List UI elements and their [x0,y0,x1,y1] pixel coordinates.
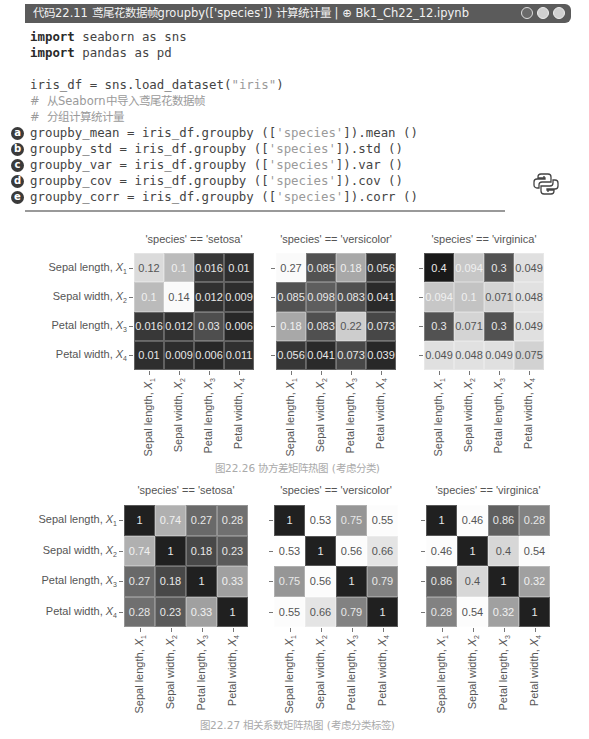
heatmap-title: 'species' == 'setosa' [126,484,246,496]
heatmap-cell: 0.049 [424,341,454,370]
heatmap-cell: 0.22 [336,312,366,341]
x-tick [473,628,474,632]
heatmap-cell: 1 [488,566,519,597]
heatmap-cell: 0.23 [217,536,248,567]
heatmap-cell: 0.01 [224,253,254,282]
heatmap-title: 'species' == 'virginica' [428,484,548,496]
y-tick [271,268,275,269]
heatmap-cell: 0.86 [426,566,457,597]
heatmap-cell: 0.32 [488,597,519,628]
y-tick [419,326,423,327]
x-tick [321,628,322,632]
heatmap-cell: 0.016 [194,253,224,282]
heatmap-cell: 0.53 [305,505,336,536]
heatmap-cell: 0.28 [124,597,155,628]
heatmap-cell: 0.085 [276,282,306,311]
code-text: ]).cov () [336,173,403,188]
heatmap-cell: 0.54 [457,597,488,628]
y-tick [269,551,273,552]
heatmap-cell: 0.01 [134,341,164,370]
x-tick [179,371,180,375]
code-keyword: import [30,29,75,44]
heatmap-cell: 0.041 [366,282,396,311]
y-axis-label: Petal width, X4 [46,605,117,619]
heatmap-cell: 0.012 [194,282,224,311]
y-tick [421,581,425,582]
code-text: iris_df = sns.load_dataset( [30,77,231,92]
code-line: # 从Seaborn中导入鸢尾花数据帧 [30,93,418,109]
annotation-marker-c: c [11,159,24,172]
x-tick [171,628,172,632]
heatmap-cell: 0.32 [519,566,550,597]
x-tick [469,371,470,375]
heatmap-cell: 1 [274,505,305,536]
code-line: egroupby_corr = iris_df.groupby (['speci… [30,189,418,205]
code-text: ]).corr () [343,189,418,204]
heatmap-cell: 0.049 [514,253,544,282]
code-string: 'species' [276,125,343,140]
y-tick [119,581,123,582]
heatmap-cell: 0.073 [366,312,396,341]
x-tick [383,628,384,632]
heatmap-cell: 0.056 [276,341,306,370]
x-tick [352,628,353,632]
window-button-circle-icon[interactable] [553,7,565,19]
heatmap-title: 'species' == 'versicolor' [276,484,396,496]
heatmap-cell: 0.12 [134,253,164,282]
y-tick [129,326,133,327]
heatmap-cell: 0.083 [336,282,366,311]
heatmap-cell: 0.071 [454,312,484,341]
x-tick [239,371,240,375]
heatmap-cell: 0.46 [457,505,488,536]
heatmap-cell: 1 [519,597,550,628]
x-axis-label: Petal length, X3 [497,635,511,717]
heatmap-cell: 1 [336,566,367,597]
code-keyword: import [30,45,75,60]
code-divider [25,210,505,212]
x-axis-label: Petal width, X4 [374,378,388,460]
x-tick [381,371,382,375]
window-button-circle-icon[interactable] [521,7,533,19]
heatmap-cell: 0.79 [336,597,367,628]
x-axis-label: Sepal width, X2 [462,378,476,460]
heatmap-cell: 0.86 [488,505,519,536]
code-comment: # 从Seaborn中导入鸢尾花数据帧 [30,94,205,108]
code-text: groupby_corr = iris_df.groupby ([ [30,189,276,204]
heatmap-cell: 1 [305,536,336,567]
heatmap-cell: 0.18 [276,312,306,341]
x-axis-label: Petal length, X3 [344,378,358,460]
heatmap-cell: 1 [217,597,248,628]
y-tick [269,581,273,582]
code-line: dgroupby_cov = iris_df.groupby (['specie… [30,173,418,189]
code-line: import seaborn as sns [30,29,418,45]
code-text: groupby_cov = iris_df.groupby ([ [30,173,269,188]
x-axis-label: Sepal width, X2 [466,635,480,717]
code-text: groupby_std = iris_df.groupby ([ [30,141,269,156]
heatmap-cell: 0.53 [274,536,305,567]
heatmap-covariance: 0.120.10.0160.010.10.140.0120.0090.0160.… [134,253,254,370]
heatmap-cell: 0.094 [454,253,484,282]
x-axis-label: Sepal length, X1 [283,635,297,717]
x-axis-label: Sepal width, X2 [314,635,328,717]
y-axis-label: Sepal length, X1 [48,261,127,275]
heatmap-cell: 1 [457,536,488,567]
x-tick [321,371,322,375]
y-tick [119,612,123,613]
x-tick [149,371,150,375]
heatmap-correlation: 10.740.270.280.7410.180.230.270.1810.330… [124,505,248,627]
heatmap-cell: 0.098 [306,282,336,311]
notebook-title-bar: 代码22.11 鸢尾花数据帧groupby(['species']) 计算统计量… [25,4,571,23]
window-button-circle-icon[interactable] [537,7,549,19]
y-tick [119,551,123,552]
annotation-marker-e: e [11,191,24,204]
annotation-marker-a: a [11,127,24,140]
heatmap-cell: 0.27 [124,566,155,597]
heatmap-cell: 0.46 [426,536,457,567]
x-axis-label: Sepal width, X2 [164,635,178,717]
heatmap-cell: 0.55 [367,505,398,536]
code-line [30,61,418,77]
annotation-marker-b: b [11,143,24,156]
x-axis-label: Sepal length, X1 [142,378,156,460]
x-axis-label: Petal width, X4 [376,635,390,717]
code-block: import seaborn as snsimport pandas as pd… [30,29,418,205]
